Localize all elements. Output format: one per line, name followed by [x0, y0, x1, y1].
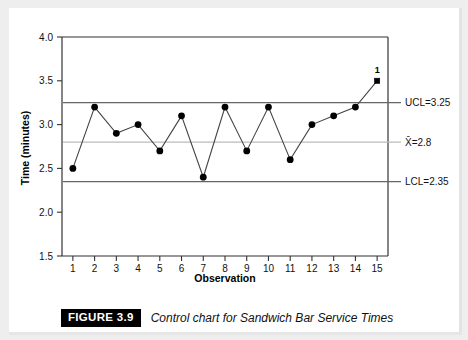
data-point-marker: [222, 104, 229, 111]
data-point-marker: [113, 130, 120, 137]
data-series-line: [73, 81, 377, 177]
x-tick-label: 5: [157, 263, 163, 274]
y-axis-title: Time (minutes): [19, 111, 31, 185]
figure-caption-text: Control chart for Sandwich Bar Service T…: [151, 311, 394, 325]
figure-container: 1.52.02.53.03.54.0 123456789101112131415…: [0, 0, 468, 340]
y-tick-label: 3.0: [39, 119, 53, 130]
data-point-marker: [243, 147, 250, 154]
data-point-marker: [265, 104, 272, 111]
data-point-marker: [178, 112, 185, 119]
panel-edge-right: [459, 8, 462, 332]
y-tick-label: 1.5: [39, 251, 53, 262]
y-tick-label: 2.0: [39, 207, 53, 218]
data-point-marker: [287, 156, 294, 163]
x-tick-label: 1: [70, 263, 76, 274]
figure-number-badge: FIGURE 3.9: [61, 309, 141, 327]
series-polyline: [73, 81, 377, 177]
x-tick-label: 6: [179, 263, 185, 274]
figure-caption: FIGURE 3.9 Control chart for Sandwich Ba…: [9, 303, 459, 333]
x-tick-label: 2: [92, 263, 98, 274]
center-line-label: X̄=2.8: [405, 136, 432, 148]
y-tick-label: 3.5: [39, 75, 53, 86]
ucl-label: UCL=3.25: [405, 97, 451, 108]
panel-edge-bottom: [9, 332, 462, 335]
y-tick-label: 2.5: [39, 163, 53, 174]
data-point-marker-out-of-control: [375, 78, 380, 83]
x-tick-label: 14: [350, 263, 362, 274]
data-point-marker: [135, 121, 142, 128]
y-tick-label: 4.0: [39, 32, 53, 43]
x-tick-label: 3: [114, 263, 120, 274]
x-axis-title: Observation: [194, 272, 255, 284]
control-limit-labels: UCL=3.25X̄=2.8LCL=2.35: [405, 97, 451, 187]
data-series-markers: [69, 78, 379, 180]
data-point-marker: [309, 121, 316, 128]
annotation-layer: 1: [375, 65, 380, 75]
data-point-marker: [352, 104, 359, 111]
control-chart: 1.52.02.53.03.54.0 123456789101112131415…: [9, 8, 459, 298]
x-tick-label: 4: [135, 263, 141, 274]
data-point-marker: [200, 174, 207, 181]
x-tick-label: 15: [372, 263, 384, 274]
control-limit-lines: [63, 103, 401, 182]
x-tick-label: 12: [306, 263, 318, 274]
data-point-marker: [330, 112, 337, 119]
chart-svg: 1.52.02.53.03.54.0 123456789101112131415…: [9, 8, 459, 298]
x-tick-label: 10: [263, 263, 275, 274]
figure-panel: 1.52.02.53.03.54.0 123456789101112131415…: [9, 8, 459, 332]
out-of-control-flag: 1: [375, 65, 380, 75]
lcl-label: LCL=2.35: [405, 176, 449, 187]
y-axis-ticks: 1.52.02.53.03.54.0: [39, 32, 62, 262]
x-tick-label: 13: [328, 263, 340, 274]
data-point-marker: [91, 104, 98, 111]
x-tick-label: 11: [285, 263, 296, 274]
plot-frame: [62, 37, 388, 256]
data-point-marker: [69, 165, 76, 172]
data-point-marker: [156, 147, 163, 154]
